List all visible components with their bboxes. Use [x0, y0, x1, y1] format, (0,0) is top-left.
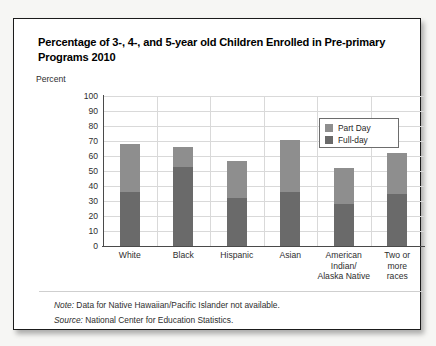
y-axis-tick-labels: 0102030405060708090100	[56, 96, 98, 246]
y-tick-label: 100	[58, 91, 98, 101]
y-axis-line	[103, 95, 104, 247]
bar-group	[387, 153, 407, 246]
bar-group	[173, 147, 193, 246]
footnotes: Note: Data for Native Hawaiian/Pacific I…	[54, 298, 404, 328]
chart-legend: Part Day Full-day	[319, 118, 399, 148]
bar-segment-full-day	[227, 198, 247, 246]
x-tick-label-line: more	[360, 261, 434, 272]
y-tick-label: 20	[58, 211, 98, 221]
legend-swatch-part-day	[325, 124, 333, 132]
legend-item-full-day: Full-day	[325, 135, 393, 147]
screenshot-page: Percentage of 3-, 4-, and 5-year old Chi…	[0, 0, 436, 346]
y-tick-label: 90	[58, 106, 98, 116]
footnote-divider	[39, 291, 423, 292]
gridline-vertical	[264, 96, 265, 246]
y-tick-label: 80	[58, 121, 98, 131]
bar-group	[334, 168, 354, 246]
bar-segment-full-day	[387, 194, 407, 247]
y-tick-label: 50	[58, 166, 98, 176]
source-line: Source: National Center for Education St…	[54, 313, 404, 328]
bar-group	[227, 161, 247, 247]
x-tick-label-line: Two or	[360, 250, 434, 261]
y-tick-label: 70	[58, 136, 98, 146]
bar-segment-full-day	[334, 204, 354, 246]
source-text: National Center for Education Statistics…	[83, 315, 233, 325]
x-axis-line	[102, 246, 425, 247]
bar-segment-part-day	[120, 144, 140, 192]
note-text: Data for Native Hawaiian/Pacific Islande…	[74, 300, 280, 310]
chart-title: Percentage of 3-, 4-, and 5-year old Chi…	[38, 35, 393, 64]
note-line: Note: Data for Native Hawaiian/Pacific I…	[54, 298, 404, 313]
bar-segment-part-day	[227, 161, 247, 199]
legend-label-full-day: Full-day	[338, 135, 368, 145]
gridline-vertical	[157, 96, 158, 246]
gridline-vertical	[317, 96, 318, 246]
x-axis-tick-labels: WhiteBlackHispanicAsianAmericanIndian/Al…	[103, 250, 424, 296]
bar-segment-part-day	[173, 147, 193, 167]
bar-segment-full-day	[173, 167, 193, 247]
bar-group	[280, 140, 300, 247]
legend-item-part-day: Part Day	[325, 122, 393, 134]
x-tick-label-line: races	[360, 271, 434, 282]
bar-group	[120, 144, 140, 246]
y-tick-label: 40	[58, 181, 98, 191]
bar-segment-part-day	[334, 168, 354, 204]
bar-segment-part-day	[387, 153, 407, 194]
y-tick-label: 10	[58, 226, 98, 236]
legend-label-part-day: Part Day	[338, 123, 371, 133]
bar-segment-full-day	[280, 192, 300, 246]
chart-card: Percentage of 3-, 4-, and 5-year old Chi…	[13, 18, 421, 330]
y-axis-title: Percent	[36, 74, 66, 84]
gridline-vertical	[210, 96, 211, 246]
legend-swatch-full-day	[325, 136, 333, 144]
note-label: Note:	[54, 300, 74, 310]
y-tick-label: 30	[58, 196, 98, 206]
source-label: Source:	[54, 315, 83, 325]
x-tick-label: Two ormoreraces	[360, 250, 434, 282]
bar-segment-full-day	[120, 192, 140, 246]
bar-segment-part-day	[280, 140, 300, 193]
y-tick-label: 60	[58, 151, 98, 161]
